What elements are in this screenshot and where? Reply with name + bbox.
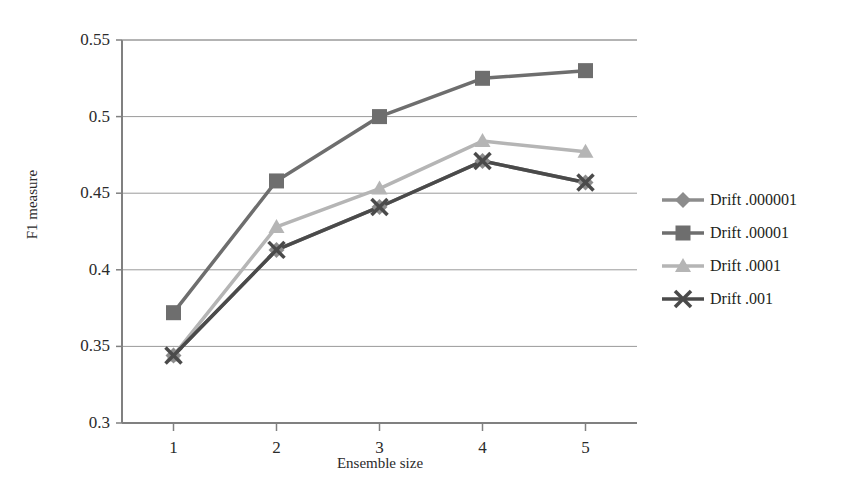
y-axis-title: F1 measure (24, 125, 41, 285)
series-line (174, 141, 586, 355)
legend-label: Drift .0001 (706, 257, 781, 275)
square-marker-icon (578, 63, 593, 78)
square-marker-icon (269, 173, 284, 188)
square-marker-icon (475, 71, 490, 86)
y-axis-tick-label: 0.3 (40, 414, 110, 431)
chart-legend: Drift .000001Drift .00001Drift .0001Drif… (660, 183, 848, 315)
y-axis-tick-label: 0.55 (40, 31, 110, 48)
legend-label: Drift .001 (706, 290, 773, 308)
x-axis-tick-label: 5 (566, 439, 606, 456)
legend-marker-swatch (660, 222, 706, 244)
x-axis-title: Ensemble size (122, 455, 638, 472)
y-axis-tick-label: 0.4 (40, 261, 110, 278)
square-marker-icon (166, 305, 181, 320)
legend-item[interactable]: Drift .001 (660, 282, 848, 315)
x-axis-tick-label: 1 (154, 439, 194, 456)
y-axis-tick-label: 0.45 (40, 184, 110, 201)
diamond-marker-icon (675, 192, 691, 208)
x-axis-tick-label: 3 (360, 439, 400, 456)
square-marker-icon (372, 109, 387, 124)
y-axis-tick-label: 0.5 (40, 108, 110, 125)
y-axis-tick-label: 0.35 (40, 337, 110, 354)
legend-label: Drift .000001 (706, 191, 797, 209)
legend-item[interactable]: Drift .000001 (660, 183, 848, 216)
legend-marker-swatch (660, 189, 706, 211)
legend-label: Drift .00001 (706, 224, 789, 242)
legend-marker-swatch (660, 288, 706, 310)
x-axis-tick-label: 2 (257, 439, 297, 456)
legend-item[interactable]: Drift .0001 (660, 249, 848, 282)
x-axis-tick-label: 4 (463, 439, 503, 456)
legend-item[interactable]: Drift .00001 (660, 216, 848, 249)
square-marker-icon (676, 225, 691, 240)
line-chart: 0.30.350.40.450.50.55 12345 F1 measure E… (0, 0, 848, 501)
legend-marker-swatch (660, 255, 706, 277)
